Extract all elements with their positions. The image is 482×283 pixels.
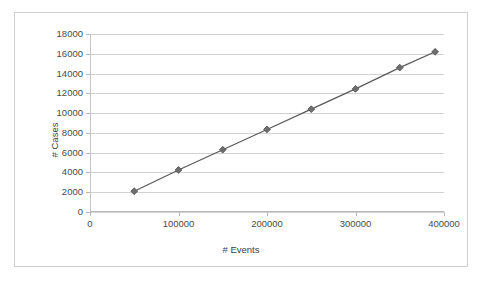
y-tick-label: 6000	[62, 148, 83, 158]
x-tick-mark	[267, 212, 268, 216]
data-point-marker	[219, 146, 226, 153]
series-line-group	[90, 34, 444, 212]
data-point-marker	[308, 106, 315, 113]
x-tick-mark	[356, 212, 357, 216]
y-tick-label: 4000	[62, 168, 83, 178]
chart-frame: # Cases # Events 02000400060008000100001…	[14, 12, 468, 267]
y-tick-label: 8000	[62, 128, 83, 138]
y-tick-label: 0	[78, 207, 83, 217]
y-tick-label: 14000	[57, 69, 83, 79]
y-tick-label: 2000	[62, 187, 83, 197]
x-tick-mark	[179, 212, 180, 216]
y-tick-label: 18000	[57, 29, 83, 39]
data-point-marker	[432, 48, 439, 55]
y-axis-title: # Cases	[49, 122, 60, 157]
x-tick-mark	[90, 212, 91, 216]
x-tick-label: 0	[87, 219, 92, 229]
x-tick-label: 400000	[428, 219, 460, 229]
x-tick-label: 100000	[163, 219, 195, 229]
x-axis-title: # Events	[15, 244, 467, 255]
data-point-marker	[352, 85, 359, 92]
x-tick-label: 300000	[340, 219, 372, 229]
plot-area: 0200040006000800010000120001400016000180…	[90, 34, 444, 212]
data-point-marker	[264, 126, 271, 133]
data-point-marker	[396, 64, 403, 71]
data-point-marker	[131, 188, 138, 195]
x-tick-mark	[444, 212, 445, 216]
y-tick-label: 12000	[57, 89, 83, 99]
y-tick-label: 16000	[57, 49, 83, 59]
x-tick-label: 200000	[251, 219, 283, 229]
y-tick-label: 10000	[57, 108, 83, 118]
data-point-marker	[175, 167, 182, 174]
